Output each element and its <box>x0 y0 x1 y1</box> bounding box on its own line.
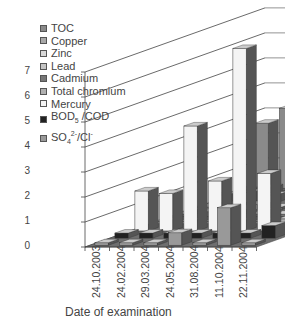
legend-swatch-icon <box>40 25 47 32</box>
legend-item: SO42-/Cl- <box>40 128 126 148</box>
legend-swatch-icon <box>40 88 47 95</box>
x-tick-label: 24.02.2004 <box>115 245 127 298</box>
y-tick-label: 0 <box>20 240 30 251</box>
y-tick-label: 1 <box>20 215 30 226</box>
x-tick-label: 29.03.2004 <box>139 245 151 298</box>
legend-label: TOC <box>51 22 74 35</box>
legend-swatch-icon <box>40 37 47 44</box>
legend-item: Zinc <box>40 47 126 60</box>
legend-label: Copper <box>51 35 87 48</box>
y-tick-label: 7 <box>20 65 30 76</box>
legend-swatch-icon <box>40 116 47 123</box>
legend-item: TOC <box>40 22 126 35</box>
legend-swatch-icon <box>40 100 47 107</box>
legend: TOCCopperZincLeadCadmiumTotal chromiumMe… <box>40 22 126 148</box>
x-axis-title: Date of examination <box>65 305 172 319</box>
legend-item: Cadmium <box>40 72 126 85</box>
legend-swatch-icon <box>40 75 47 82</box>
legend-label: Zinc <box>51 47 72 60</box>
legend-item: Copper <box>40 35 126 48</box>
legend-label: Lead <box>51 60 75 73</box>
legend-swatch-icon <box>40 50 47 57</box>
legend-swatch-icon <box>40 63 47 70</box>
x-tick-label: 24.05.2004 <box>164 245 176 298</box>
x-tick-label: 11.10.2004 <box>213 246 225 298</box>
y-tick-label: 4 <box>20 140 30 151</box>
legend-item: BOD5 /COD <box>40 110 126 128</box>
legend-item: Total chromium <box>40 85 126 98</box>
legend-label: Mercury <box>51 98 91 111</box>
legend-swatch-icon <box>40 135 47 142</box>
y-tick-label: 3 <box>20 165 30 176</box>
x-tick-label: 22.11.2004 <box>237 246 249 298</box>
y-tick-label: 5 <box>20 115 30 126</box>
legend-label: Total chromium <box>51 85 126 98</box>
legend-label: SO42-/Cl- <box>51 128 93 148</box>
legend-item: Lead <box>40 60 126 73</box>
legend-label: BOD5 /COD <box>51 110 109 128</box>
legend-label: Cadmium <box>51 72 98 85</box>
x-tick-label: 24.10.2003 <box>90 245 102 298</box>
legend-item: Mercury <box>40 98 126 111</box>
y-tick-label: 2 <box>20 190 30 201</box>
x-tick-label: 31.08.2004 <box>188 245 200 298</box>
y-tick-label: 6 <box>20 90 30 101</box>
